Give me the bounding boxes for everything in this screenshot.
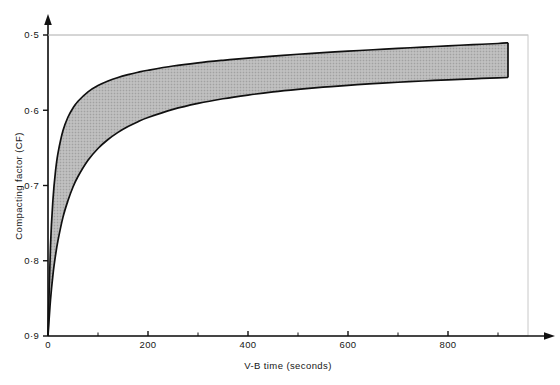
- y-tick-label: 0·8: [24, 255, 39, 266]
- x-axis-ticks: 0200400600800: [45, 331, 456, 350]
- x-tick-label: 0: [45, 339, 51, 350]
- y-tick-label: 0·7: [24, 180, 39, 191]
- y-axis-title: Compacting factor (CF): [13, 132, 24, 240]
- x-tick-label: 600: [340, 339, 357, 350]
- compacting-factor-vb-time-chart: 0·50·60·70·80·9 0200400600800 V-B time (…: [0, 0, 560, 385]
- x-tick-label: 800: [440, 339, 457, 350]
- y-tick-label: 0·9: [24, 330, 39, 341]
- x-axis-arrowhead: [544, 332, 555, 340]
- y-axis-ticks: 0·50·60·70·80·9: [24, 29, 48, 341]
- figure-container: 0·50·60·70·80·9 0200400600800 V-B time (…: [0, 0, 560, 385]
- x-axis-title: V-B time (seconds): [244, 360, 331, 371]
- x-tick-label: 400: [240, 339, 257, 350]
- x-tick-label: 200: [140, 339, 157, 350]
- y-tick-label: 0·5: [24, 29, 39, 40]
- y-tick-label: 0·6: [24, 105, 39, 116]
- y-axis-arrowhead: [44, 14, 52, 25]
